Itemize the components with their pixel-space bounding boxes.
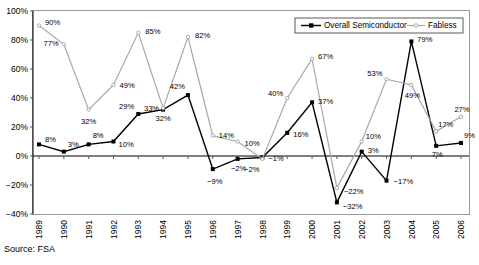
y-tick-label: 0% [16,151,29,161]
y-tick-label: −40% [6,209,28,219]
source-note: Source: FSA [4,244,55,254]
x-tick-label: 2005 [431,220,441,239]
data-label: 42% [170,82,185,91]
x-tick-label: 2002 [357,220,367,239]
data-point-marker[interactable] [360,150,364,154]
data-point-marker[interactable] [211,167,215,171]
data-label: 29% [119,102,134,111]
x-tick-label: 1993 [133,220,143,239]
data-label: 67% [318,52,333,61]
data-label: −9% [207,177,223,186]
data-label: 8% [93,131,104,140]
data-point-marker[interactable] [111,140,115,144]
data-label: 49% [405,91,420,100]
data-label: 79% [417,35,432,44]
data-label: 49% [119,81,134,90]
data-point-marker[interactable] [87,142,91,146]
data-label: 77% [44,39,59,48]
data-point-marker[interactable] [37,24,40,27]
data-point-marker[interactable] [236,140,239,143]
data-label: 14% [219,131,234,140]
y-tick-label: −20% [6,180,28,190]
data-label: 85% [145,27,160,36]
data-point-marker[interactable] [410,83,413,86]
x-tick-label: 1992 [109,220,119,239]
data-label: −2% [244,165,260,174]
data-label: 82% [195,31,210,40]
data-label: 8% [45,135,56,144]
data-label: −17% [394,177,414,186]
x-tick-label: 1996 [208,220,218,239]
y-tick-label: 100% [6,6,28,16]
data-point-marker[interactable] [186,93,190,97]
x-tick-label: 1995 [183,220,193,239]
data-point-marker[interactable] [310,100,314,104]
x-tick-label: 1990 [59,220,69,239]
x-tick-label: 1997 [233,220,243,239]
data-label: 10% [366,132,381,141]
data-label: 33% [144,104,159,113]
data-point-marker[interactable] [37,142,41,146]
data-point-marker[interactable] [335,200,339,204]
y-tick-label: 60% [11,64,28,74]
data-point-marker[interactable] [87,108,90,111]
data-point-marker[interactable] [310,57,313,60]
data-label: 16% [293,130,308,139]
data-point-marker[interactable] [434,144,438,148]
data-label: 3% [368,146,379,155]
data-label: 27% [454,105,469,114]
data-point-marker[interactable] [434,130,437,133]
x-tick-label: 2003 [382,220,392,239]
data-point-marker[interactable] [261,157,264,160]
x-tick-label: 1998 [258,220,268,239]
data-label: 3% [68,140,79,149]
data-label: 32% [156,114,171,123]
legend-marker-square[interactable] [309,23,313,27]
data-point-marker[interactable] [285,131,289,135]
data-point-marker[interactable] [161,106,164,109]
data-label: −1% [268,154,284,163]
data-point-marker[interactable] [236,157,240,161]
data-label: 53% [367,69,382,78]
data-point-marker[interactable] [186,35,189,38]
x-tick-label: 1999 [282,220,292,239]
data-point-marker[interactable] [409,39,413,43]
data-point-marker[interactable] [112,83,115,86]
x-tick-label: 2000 [307,220,317,239]
x-tick-label: 2001 [332,220,342,239]
data-point-marker[interactable] [459,141,463,145]
y-tick-label: 40% [11,93,28,103]
data-label: −22% [344,187,364,196]
data-label: 17% [438,120,453,129]
legend-label-fabless: Fabless [428,21,457,30]
data-point-marker[interactable] [286,96,289,99]
data-point-marker[interactable] [211,134,214,137]
x-tick-label: 1994 [158,220,168,239]
data-point-marker[interactable] [360,140,363,143]
data-label: 90% [45,18,60,27]
x-tick-label: 1991 [84,220,94,239]
legend-marker-dot[interactable] [414,24,418,28]
data-point-marker[interactable] [137,31,140,34]
data-point-marker[interactable] [62,150,66,154]
data-point-marker[interactable] [385,77,388,80]
legend-label-overall-semiconductor: Overall Semiconductor [324,21,407,30]
data-label: 32% [81,117,96,126]
data-label: 10% [245,139,260,148]
data-label: −32% [343,202,363,211]
data-point-marker[interactable] [459,115,462,118]
y-tick-label: 20% [11,122,28,132]
data-point-marker[interactable] [136,112,140,116]
x-tick-label: 1989 [34,220,44,239]
data-label: 10% [118,140,133,149]
chart-figure: 100%80%60%40%20%0%−20%−40%19891990199119… [0,0,479,265]
x-tick-label: 2006 [456,220,466,239]
data-label: 37% [318,97,333,106]
series-line-fabless[interactable] [39,26,461,188]
data-point-marker[interactable] [385,179,389,183]
data-point-marker[interactable] [62,43,65,46]
data-label: 40% [268,89,283,98]
chart-canvas: 100%80%60%40%20%0%−20%−40%19891990199119… [0,0,479,265]
data-point-marker[interactable] [335,186,338,189]
data-label: 7% [432,150,443,159]
